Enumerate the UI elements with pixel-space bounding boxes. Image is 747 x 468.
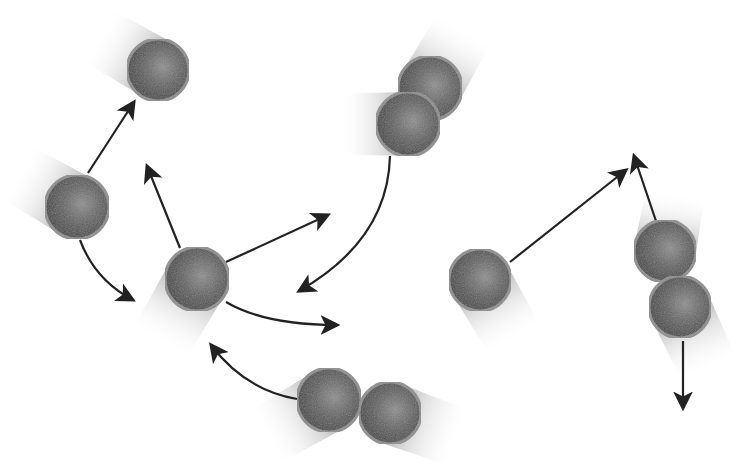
diagram-canvas <box>0 0 747 468</box>
velocity-arrow <box>147 166 180 248</box>
particle-sphere <box>165 247 229 311</box>
particle-sphere <box>634 220 696 282</box>
particle-sphere <box>449 249 511 311</box>
velocity-arrow <box>510 170 626 262</box>
velocity-arrow <box>226 302 337 325</box>
particle-sphere <box>127 39 189 101</box>
particle-sphere <box>297 368 361 432</box>
velocity-arrow <box>226 215 328 262</box>
velocity-arrow <box>80 240 133 300</box>
particle-sphere <box>359 382 421 444</box>
velocity-arrow <box>299 156 390 291</box>
particle-sphere <box>649 276 711 338</box>
particle-sphere <box>376 92 440 156</box>
velocity-arrow <box>88 102 134 173</box>
particle-collision-diagram <box>0 0 747 468</box>
particle-sphere <box>45 175 109 239</box>
